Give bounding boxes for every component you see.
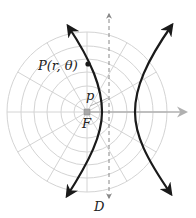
- focus-label: F: [81, 116, 92, 131]
- point-label: P(r, θ): [37, 58, 78, 73]
- hyperbola-diagram: P(r, θ) p F D: [0, 0, 196, 218]
- p-label: p: [86, 88, 95, 103]
- directrix-label: D: [93, 199, 105, 214]
- hyperbola-right-branch: [135, 25, 172, 194]
- point-p-marker: [85, 61, 90, 66]
- focus-marker: [84, 109, 90, 115]
